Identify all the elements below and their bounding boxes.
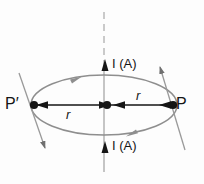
label-radius-right: r [136, 89, 140, 102]
point-marker-center [103, 101, 111, 109]
arrow-up-icon-current-bottom [102, 141, 109, 153]
label-current-top: I (A) [112, 57, 137, 70]
arrow-left-icon-radius-right-inner [113, 101, 125, 109]
label-point-p: P [176, 96, 187, 112]
physics-diagram [0, 0, 204, 184]
arrow-up-icon-current-top [102, 59, 109, 71]
point-marker-p-prime [30, 101, 38, 109]
field-line-left [19, 73, 45, 148]
figure-canvas: P P′ I (A) I (A) r r [0, 0, 204, 184]
label-point-p-prime: P′ [5, 96, 19, 112]
label-radius-left: r [66, 108, 70, 121]
label-current-bottom: I (A) [112, 139, 137, 152]
